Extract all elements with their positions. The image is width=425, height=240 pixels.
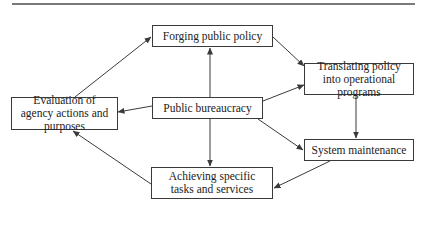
node-translating-policy: Translating policy into operational prog…	[304, 63, 414, 95]
node-label: Evaluation of agency actions and purpose…	[16, 94, 113, 133]
arrow-maintenance-to-achieving	[274, 161, 330, 188]
node-forging-public-policy: Forging public policy	[152, 25, 273, 47]
node-public-bureaucracy: Public bureaucracy	[152, 97, 263, 119]
node-label: Translating policy into operational prog…	[309, 60, 409, 99]
arrow-bureaucracy-to-translating	[263, 85, 304, 101]
arrow-forging-to-translating	[273, 37, 304, 66]
node-label: Forging public policy	[163, 30, 262, 43]
node-label: Public bureaucracy	[163, 102, 251, 115]
arrow-bureaucracy-to-maintenance	[258, 119, 303, 150]
node-system-maintenance: System maintenance	[304, 139, 414, 161]
arrow-achieving-to-evaluation	[73, 131, 151, 184]
node-label: System maintenance	[312, 144, 407, 157]
node-achieving-tasks: Achieving specific tasks and services	[151, 167, 273, 199]
node-label: Achieving specific tasks and services	[156, 170, 268, 196]
node-evaluation: Evaluation of agency actions and purpose…	[11, 97, 118, 130]
arrow-bureaucracy-to-evaluation	[118, 106, 152, 112]
arrow-evaluation-to-forging	[75, 37, 151, 97]
